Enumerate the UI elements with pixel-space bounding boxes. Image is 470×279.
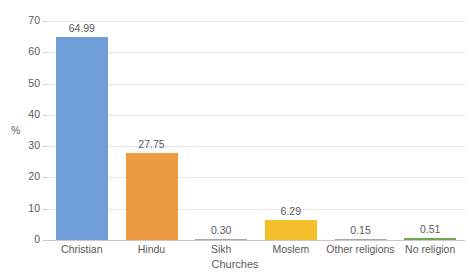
y-axis-tick-label: 70 bbox=[18, 14, 40, 26]
bar bbox=[265, 220, 317, 240]
x-axis-category-label: No religion bbox=[395, 243, 465, 255]
y-axis-tick-label: 0 bbox=[18, 233, 40, 245]
bar-chart: 010203040506070 % 64.9927.750.306.290.15… bbox=[0, 0, 470, 279]
bar-value-label: 0.51 bbox=[400, 223, 460, 235]
y-axis-tick-label: 10 bbox=[18, 202, 40, 214]
bar bbox=[335, 239, 387, 240]
bar-value-label: 0.30 bbox=[191, 224, 251, 236]
bar-value-label: 64.99 bbox=[52, 22, 112, 34]
y-axis-tick-label: 50 bbox=[18, 77, 40, 89]
y-axis-tick-label: 40 bbox=[18, 108, 40, 120]
bar-value-label: 6.29 bbox=[261, 205, 321, 217]
x-axis-category-label: Moslem bbox=[256, 243, 326, 255]
bar bbox=[195, 239, 247, 240]
y-axis-title: % bbox=[11, 124, 20, 136]
bars-layer: 64.9927.750.306.290.150.51 bbox=[47, 21, 465, 240]
x-axis-title: Churches bbox=[0, 258, 470, 270]
x-axis-category-label: Hindu bbox=[117, 243, 187, 255]
bar-value-label: 0.15 bbox=[331, 224, 391, 236]
bar bbox=[56, 37, 108, 240]
x-axis-category-label: Other religions bbox=[326, 243, 396, 255]
bar bbox=[404, 238, 456, 240]
bar-value-label: 27.75 bbox=[122, 138, 182, 150]
x-axis-category-label: Sikh bbox=[186, 243, 256, 255]
y-axis-tick-label: 20 bbox=[18, 170, 40, 182]
y-axis-tick-label: 30 bbox=[18, 139, 40, 151]
x-axis-line bbox=[47, 240, 465, 241]
x-axis-category-label: Christian bbox=[47, 243, 117, 255]
y-axis-tick-mark bbox=[43, 240, 47, 241]
y-axis-tick-label: 60 bbox=[18, 45, 40, 57]
bar bbox=[126, 153, 178, 240]
